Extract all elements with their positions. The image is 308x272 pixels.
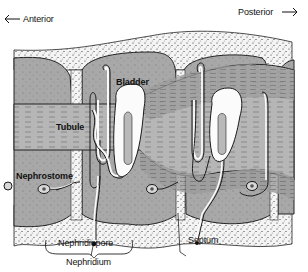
tubule-label: Tubule (56, 123, 84, 132)
nephridiopore-label: Nephridiopore (58, 239, 113, 248)
nephridium-diagram: Anterior Posterior Bladder Tubule Nephro… (0, 0, 308, 272)
nephridium-label: Nephridium (66, 258, 111, 267)
bladder-1-inner (124, 112, 132, 165)
nephrostome-label: Nephrostome (16, 172, 73, 181)
posterior-arrow-icon (282, 8, 297, 16)
diagram-illustration (0, 0, 308, 272)
anterior-label: Anterior (23, 15, 54, 24)
bladder-label: Bladder (116, 78, 149, 87)
bladder-2-inner (218, 114, 226, 155)
nephrostome-3 (247, 182, 258, 191)
nephrostome-0 (4, 182, 12, 190)
septum-label: Septum (188, 236, 218, 245)
anterior-arrow-icon (5, 15, 20, 23)
posterior-label: Posterior (238, 8, 273, 17)
